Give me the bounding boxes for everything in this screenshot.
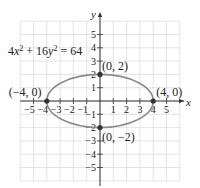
y-axis-label: y bbox=[90, 8, 96, 20]
y-tick-label: −5 bbox=[85, 162, 96, 173]
point-label: (0, −2) bbox=[102, 130, 135, 144]
x-tick-label: 5 bbox=[164, 104, 169, 115]
x-tick-label: −2 bbox=[64, 104, 75, 115]
x-axis-arrow-icon bbox=[179, 99, 184, 103]
y-tick-label: 5 bbox=[91, 29, 96, 40]
y-tick-label: −1 bbox=[85, 109, 96, 120]
equation-label: 4x2 + 16y2 = 64 bbox=[8, 44, 82, 59]
x-tick-label: −4 bbox=[37, 104, 48, 115]
y-tick-label: 3 bbox=[91, 56, 96, 67]
y-tick-label: −4 bbox=[85, 149, 96, 160]
y-tick-label: 4 bbox=[91, 42, 96, 53]
point-label: (−4, 0) bbox=[9, 85, 42, 99]
x-tick-label: 3 bbox=[137, 104, 142, 115]
axes bbox=[20, 12, 184, 186]
y-axis-arrow-icon bbox=[98, 12, 102, 17]
x-tick-label: −5 bbox=[24, 104, 35, 115]
ellipse-graph: −5−4−3−2−112345−5−4−3−2−112345 (−4, 0)(4… bbox=[0, 0, 200, 188]
x-tick-label: 2 bbox=[124, 104, 129, 115]
point-marker bbox=[151, 98, 156, 103]
y-tick-label: −3 bbox=[85, 135, 96, 146]
point-label: (0, 2) bbox=[102, 59, 128, 73]
x-axis-label: x bbox=[185, 96, 191, 108]
y-tick-label: 1 bbox=[91, 82, 96, 93]
point-marker bbox=[44, 98, 49, 103]
x-tick-label: 1 bbox=[111, 104, 116, 115]
point-label: (4, 0) bbox=[156, 85, 182, 99]
